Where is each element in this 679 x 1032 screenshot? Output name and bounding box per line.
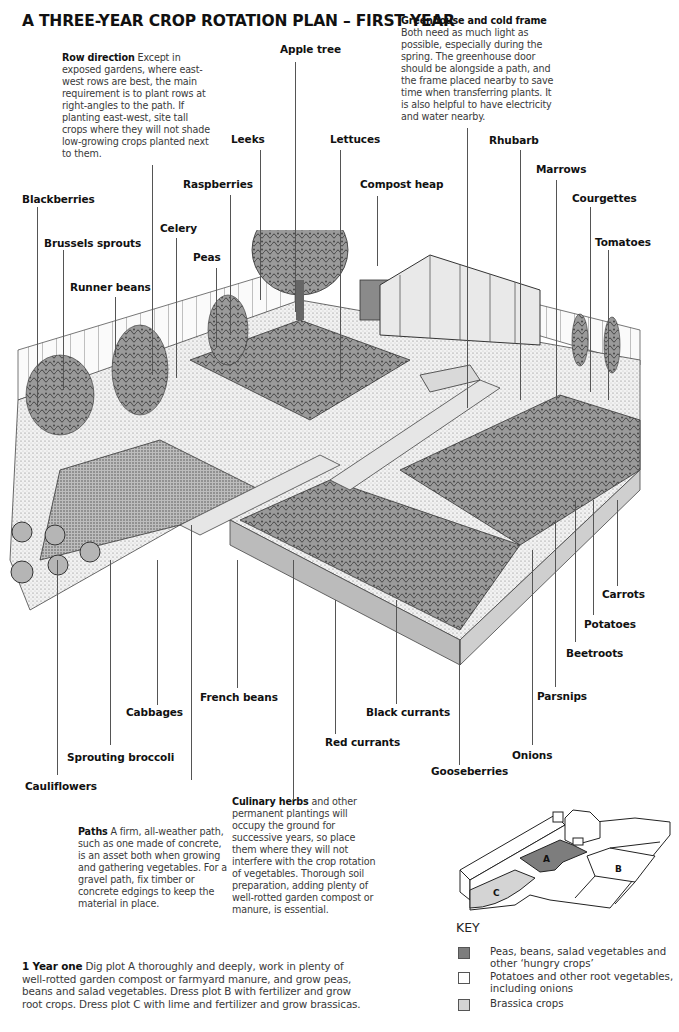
leader-line — [377, 196, 378, 266]
plot-c-label: C — [493, 888, 500, 898]
leader-line — [617, 500, 618, 586]
key-swatch-light — [458, 999, 470, 1011]
label-peas: Peas — [193, 251, 221, 263]
leader-line — [532, 550, 533, 745]
leader-line — [237, 560, 238, 688]
leader-line — [191, 525, 192, 780]
key-swatch-dark — [458, 947, 470, 959]
leader-line — [230, 195, 231, 335]
leader-line — [575, 500, 576, 642]
note-heading: Row direction — [62, 52, 135, 63]
note-heading: Greenhouse and cold frame — [401, 15, 547, 26]
label-cabbages: Cabbages — [126, 706, 183, 718]
label-celery: Celery — [160, 222, 197, 234]
leader-line — [590, 207, 591, 392]
leader-line — [37, 207, 38, 407]
label-apple-tree: Apple tree — [280, 43, 341, 55]
key-text: Potatoes and other root vegetables, incl… — [490, 971, 679, 995]
note-body: and other permanent plantings will occup… — [232, 796, 375, 915]
label-french-beans: French beans — [200, 691, 278, 703]
leader-line — [340, 150, 341, 380]
leader-line — [396, 600, 397, 704]
leader-line — [157, 560, 158, 705]
year-one-caption: 1 Year one Dig plot A thoroughly and dee… — [22, 960, 367, 1010]
label-onions: Onions — [512, 749, 552, 761]
label-black-currants: Black currants — [366, 706, 450, 718]
leader-line — [110, 560, 111, 745]
leader-line — [260, 150, 261, 300]
leader-line — [293, 560, 294, 800]
label-compost-heap: Compost heap — [360, 178, 444, 190]
leader-line — [593, 500, 594, 615]
label-rhubarb: Rhubarb — [489, 134, 539, 146]
note-greenhouse: Greenhouse and cold frame Both need as m… — [401, 15, 559, 123]
key-swatch-white — [458, 972, 470, 984]
plot-plan-diagram: A B C — [455, 800, 679, 925]
leader-line — [608, 250, 609, 400]
label-parsnips: Parsnips — [537, 690, 587, 702]
leader-line — [556, 180, 557, 400]
plot-a-label: A — [543, 854, 550, 864]
note-heading: Paths — [78, 826, 108, 837]
plot-b-label: B — [615, 864, 622, 874]
note-row-direction: Row direction Except in exposed gardens,… — [62, 52, 210, 160]
leader-line — [555, 520, 556, 687]
label-tomatoes: Tomatoes — [595, 236, 651, 248]
leader-line — [520, 150, 521, 400]
note-body: Except in exposed gardens, where east-we… — [62, 52, 210, 159]
label-runner-beans: Runner beans — [70, 281, 151, 293]
leader-line — [216, 268, 217, 348]
note-heading: Culinary herbs — [232, 796, 309, 807]
label-raspberries: Raspberries — [183, 178, 253, 190]
leader-line — [176, 238, 177, 378]
key-text: Brassica crops — [490, 998, 679, 1010]
leader-line — [467, 128, 468, 408]
key-title: KEY — [456, 920, 480, 935]
label-leeks: Leeks — [231, 133, 265, 145]
note-culinary-herbs: Culinary herbs and other permanent plant… — [232, 796, 382, 916]
leader-line — [57, 560, 58, 775]
label-beetroots: Beetroots — [566, 647, 623, 659]
label-lettuces: Lettuces — [330, 133, 380, 145]
note-body: A firm, all-weather path, such as one ma… — [78, 826, 227, 909]
leader-line — [459, 640, 460, 765]
label-blackberries: Blackberries — [22, 193, 95, 205]
leader-line — [295, 62, 296, 312]
key-item: Peas, beans, salad vegetables and other … — [458, 946, 679, 970]
key-text: Peas, beans, salad vegetables and other … — [490, 946, 679, 970]
note-body: Both need as much light as possible, esp… — [401, 27, 553, 122]
leader-line — [152, 165, 153, 375]
label-carrots: Carrots — [602, 588, 645, 600]
label-sprouting-broccoli: Sprouting broccoli — [67, 751, 174, 763]
label-brussels-sprouts: Brussels sprouts — [44, 237, 141, 249]
year-one-heading: 1 Year one — [22, 960, 82, 972]
key-item: Brassica crops — [458, 998, 679, 1011]
leader-line — [335, 600, 336, 734]
leader-line — [63, 250, 64, 390]
label-marrows: Marrows — [536, 163, 586, 175]
label-potatoes: Potatoes — [584, 618, 636, 630]
label-gooseberries: Gooseberries — [431, 765, 508, 777]
label-courgettes: Courgettes — [572, 192, 637, 204]
label-red-currants: Red currants — [325, 736, 400, 748]
label-cauliflowers: Cauliflowers — [25, 780, 97, 792]
note-paths: Paths A firm, all-weather path, such as … — [78, 826, 228, 910]
leader-line — [115, 297, 116, 357]
key-item: Potatoes and other root vegetables, incl… — [458, 971, 679, 995]
page-title: A THREE-YEAR CROP ROTATION PLAN – FIRST … — [22, 12, 455, 30]
